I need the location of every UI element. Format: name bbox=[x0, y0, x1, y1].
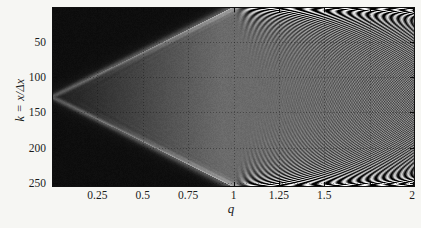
x-tick-label: 2 bbox=[409, 189, 415, 201]
figure: k = x/Δx q 0.250.50.7511.251.52 50100150… bbox=[0, 0, 421, 228]
y-tick-label: 200 bbox=[0, 141, 46, 155]
y-tick-label: 150 bbox=[0, 105, 46, 119]
x-tick-label: 0.5 bbox=[136, 189, 150, 201]
y-tick-label: 100 bbox=[0, 70, 46, 84]
x-tick-label: 1.5 bbox=[317, 189, 331, 201]
x-tick-label: 0.75 bbox=[178, 189, 198, 201]
x-tick-label: 0.25 bbox=[87, 189, 107, 201]
heatmap-canvas bbox=[52, 7, 415, 187]
x-tick-label: 1 bbox=[231, 189, 237, 201]
y-tick-label: 50 bbox=[0, 35, 46, 49]
x-tick-label: 1.25 bbox=[269, 189, 289, 201]
y-tick-label: 250 bbox=[0, 176, 46, 190]
x-axis-label: q bbox=[228, 201, 235, 217]
